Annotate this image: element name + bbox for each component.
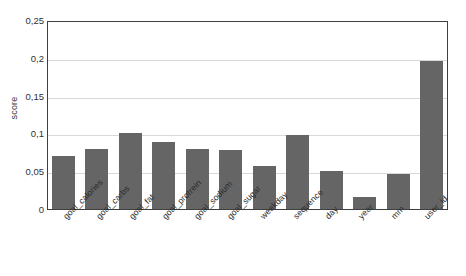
bar: [320, 171, 343, 209]
y-tick-label: 0,15: [14, 92, 44, 102]
y-tick-label: 0,2: [14, 54, 44, 64]
y-axis-tick-labels: 0,250,20,150,10,050: [16, 0, 44, 276]
y-tick-label: 0,1: [14, 129, 44, 139]
bar: [420, 61, 443, 209]
y-tick-label: 0,05: [14, 167, 44, 177]
x-axis-tick-labels: goal_caloriesgoal_carbsgoal_fatgoal_prot…: [47, 210, 448, 276]
plot-area: [47, 21, 448, 210]
bar-series: [48, 22, 447, 209]
bar-chart: score 0,250,20,150,10,050 goal_caloriesg…: [0, 0, 466, 276]
y-tick-label: 0: [14, 205, 44, 215]
bar: [52, 156, 75, 209]
y-tick-label: 0,25: [14, 16, 44, 26]
